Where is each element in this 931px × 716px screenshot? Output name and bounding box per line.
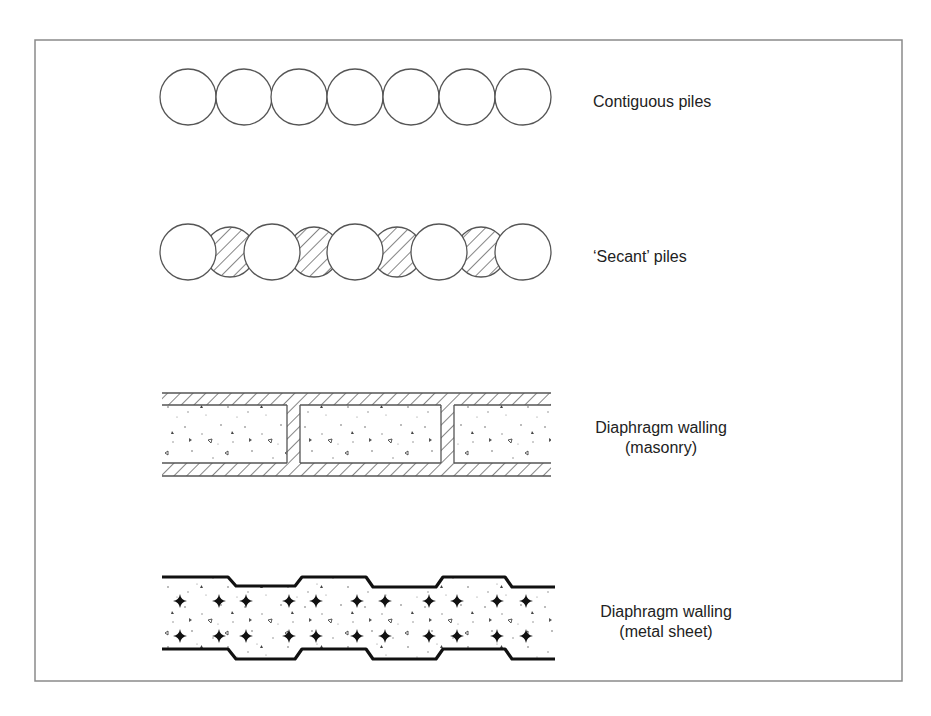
label-diaphragm-metal-sheet: Diaphragm walling (metal sheet) (586, 602, 746, 642)
label-line-2: (metal sheet) (586, 622, 746, 642)
label-text: Contiguous piles (593, 93, 711, 110)
metal-sheet-bottom (162, 649, 555, 659)
label-secant-piles: ‘Secant’ piles (593, 247, 687, 267)
label-line-2: (masonry) (581, 438, 741, 458)
pile-circle (216, 69, 272, 125)
concrete-infill (162, 405, 551, 463)
contiguous-piles-drawing (160, 69, 551, 125)
masonry-bottom-band (162, 463, 551, 476)
pile-circle (495, 69, 551, 125)
concrete-infill (162, 577, 555, 659)
primary-pile (160, 224, 216, 280)
label-line-1: Diaphragm walling (581, 418, 741, 438)
pile-circle (271, 69, 327, 125)
masonry-cross-wall (441, 405, 454, 463)
pile-circle (160, 69, 216, 125)
primary-pile (495, 224, 551, 280)
metal-sheet-diaphragm-wall-drawing (162, 577, 555, 659)
masonry-top-band (162, 393, 551, 405)
secant-piles-drawing (160, 224, 551, 280)
masonry-cross-wall (287, 405, 300, 463)
pile-circle (383, 69, 439, 125)
label-line-1: Diaphragm walling (586, 602, 746, 622)
primary-pile (411, 224, 467, 280)
primary-pile (327, 224, 383, 280)
primary-pile (244, 224, 300, 280)
label-diaphragm-masonry: Diaphragm walling (masonry) (581, 418, 741, 458)
label-text: ‘Secant’ piles (593, 248, 687, 265)
pile-circle (327, 69, 383, 125)
pile-circle (439, 69, 495, 125)
masonry-diaphragm-wall-drawing (162, 393, 551, 476)
label-contiguous-piles: Contiguous piles (593, 92, 711, 112)
retaining-wall-types-diagram (0, 0, 931, 716)
